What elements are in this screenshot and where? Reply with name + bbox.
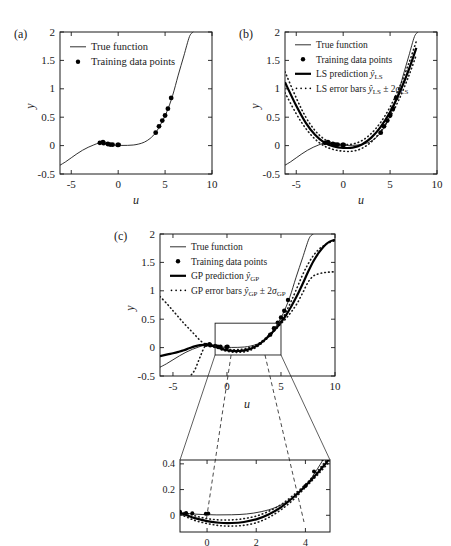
panel-b-legend: True function Training data points LS pr… — [295, 40, 409, 96]
training-point — [303, 484, 307, 488]
panel-b-svg: (b) -0.500.511.52 -50510 u y True functi… — [237, 16, 447, 208]
ytick-label: 0.2 — [163, 484, 176, 495]
legend-label: True function — [191, 242, 243, 252]
xtick-label: -5 — [67, 178, 77, 190]
ytick-label: 0.4 — [163, 458, 176, 469]
legend-entry: True function — [70, 41, 149, 52]
ytick-label: 0.5 — [41, 111, 55, 123]
ytick-label: 1 — [50, 82, 56, 94]
legend-dotted-icon — [300, 87, 302, 89]
zoom-connector-line — [180, 355, 215, 460]
training-point — [169, 95, 174, 100]
inset-panel: 00.20.4 024 — [136, 452, 376, 546]
panel-a-training-points — [97, 95, 173, 147]
legend-dotted-icon — [305, 87, 307, 89]
panel-a-legend: True function Training data points — [70, 41, 175, 67]
figure-container: (a) -0.500.511.52 -50510 u y True functi… — [0, 0, 451, 546]
ytick-label: -0.5 — [263, 168, 281, 180]
legend-label: Training data points — [91, 56, 175, 67]
training-point — [178, 510, 182, 514]
training-point — [335, 142, 340, 147]
inset-ytick-labels: 00.20.4 — [163, 458, 331, 520]
zoom-connector-line — [281, 355, 330, 460]
training-point — [382, 124, 387, 129]
panel-b: (b) -0.500.511.52 -50510 u y True functi… — [237, 16, 447, 208]
inset-svg: 00.20.4 024 — [136, 452, 376, 546]
training-point — [341, 142, 346, 147]
training-point — [101, 141, 106, 146]
legend-entry: LS prediction ŷLS — [295, 69, 383, 81]
ytick-label: 2 — [275, 26, 281, 38]
legend-dotted-icon — [296, 87, 298, 89]
legend-dotted-icon — [184, 289, 186, 291]
training-point — [282, 308, 286, 312]
ytick-label: 1.5 — [41, 54, 55, 66]
xtick-label: -5 — [292, 178, 302, 190]
panel-a-frame — [60, 32, 212, 174]
panel-c-legend: True function Training data points GP pr… — [170, 242, 286, 298]
ytick-label: 1 — [150, 284, 156, 296]
ytick-label: 0.5 — [141, 313, 155, 325]
legend-entry: Training data points — [76, 56, 175, 67]
ytick-label: 0.5 — [266, 111, 280, 123]
panel-a-ylabel: y — [23, 103, 37, 110]
training-point — [286, 298, 290, 302]
training-point — [276, 320, 280, 324]
legend-entry: GP prediction ŷGP — [170, 271, 259, 283]
xtick-label: 5 — [162, 178, 168, 190]
legend-label: True function — [316, 40, 368, 50]
xtick-label: 4 — [303, 537, 308, 546]
ytick-label: 1.5 — [141, 256, 155, 268]
xtick-label: 0 — [115, 178, 121, 190]
panel-a-tag: (a) — [14, 27, 27, 41]
training-point — [184, 511, 188, 515]
panel-b-tag: (b) — [239, 27, 253, 41]
ytick-label: -0.5 — [38, 168, 56, 180]
xtick-label: 10 — [432, 178, 444, 190]
legend-dotted-icon — [175, 289, 177, 291]
panel-a-plot: -0.500.511.52 -50510 u y — [23, 26, 218, 207]
training-point — [321, 457, 325, 461]
training-point — [116, 142, 121, 147]
training-point — [268, 332, 272, 336]
panel-c-true-curve — [160, 234, 313, 367]
training-point — [153, 130, 158, 135]
legend-entry: LS error bars ŷLS ± 2σLS — [296, 84, 409, 96]
legend-label: True function — [91, 41, 149, 52]
training-point — [326, 141, 331, 146]
xtick-label: 0 — [205, 537, 210, 546]
panel-b-training-points — [322, 95, 398, 147]
legend-dot-icon — [76, 60, 80, 64]
inset-xtick-labels: 024 — [205, 460, 308, 546]
legend-dot-icon — [176, 259, 180, 263]
legend-label: LS prediction ŷLS — [316, 69, 383, 81]
training-point — [272, 326, 276, 330]
legend-label: LS error bars ŷLS ± 2σLS — [316, 84, 409, 96]
xtick-label: 0 — [340, 178, 346, 190]
training-point — [206, 511, 210, 515]
legend-label: Training data points — [191, 257, 267, 267]
true-function-path — [160, 234, 313, 367]
training-point — [391, 106, 396, 111]
training-point — [312, 470, 316, 474]
training-point — [190, 511, 194, 515]
panel-a: (a) -0.500.511.52 -50510 u y True functi… — [12, 16, 222, 208]
xtick-label: 10 — [207, 178, 219, 190]
panel-c-tag: (c) — [114, 229, 127, 243]
legend-entry: True function — [170, 242, 243, 252]
ytick-label: 0 — [50, 139, 56, 151]
legend-entry: True function — [295, 40, 368, 50]
panel-b-ylabel: y — [248, 103, 262, 110]
training-point — [166, 106, 171, 111]
xtick-label: 5 — [387, 178, 393, 190]
xtick-label: 2 — [254, 537, 259, 546]
panel-a-svg: (a) -0.500.511.52 -50510 u y True functi… — [12, 16, 222, 208]
panel-b-plot: -0.500.511.52 -50510 u y — [248, 26, 443, 207]
legend-label: GP prediction ŷGP — [191, 271, 259, 283]
panel-b-xlabel: u — [358, 193, 364, 207]
training-point — [110, 142, 115, 147]
ytick-label: 0 — [275, 139, 281, 151]
ytick-label: 2 — [150, 228, 156, 240]
ytick-label: 1.5 — [266, 54, 280, 66]
legend-dot-icon — [301, 57, 305, 61]
